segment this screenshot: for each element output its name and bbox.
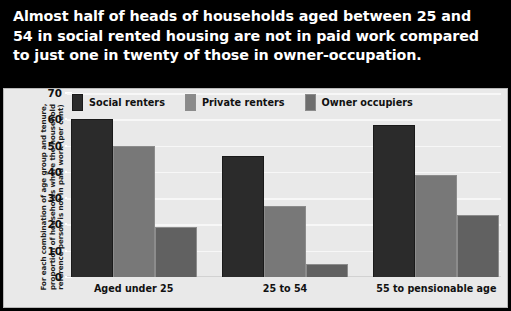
y-tick-label: 10 bbox=[48, 245, 62, 257]
legend-swatch-icon bbox=[72, 94, 83, 111]
plot-area bbox=[67, 93, 501, 277]
bar-group bbox=[71, 93, 197, 277]
chart-figure: Almost half of heads of households aged … bbox=[0, 0, 511, 311]
y-tick-label: 70 bbox=[48, 87, 62, 99]
legend-item-1[interactable]: Private renters bbox=[185, 94, 285, 111]
y-tick-label: 30 bbox=[48, 192, 62, 204]
y-tick-label: 0 bbox=[55, 271, 62, 283]
legend-item-2[interactable]: Owner occupiers bbox=[305, 94, 413, 111]
bar-2-2 bbox=[457, 215, 499, 277]
bar-2-1 bbox=[306, 264, 348, 277]
bar-0-2 bbox=[373, 125, 415, 277]
bar-1-1 bbox=[264, 206, 306, 277]
y-tick-label: 60 bbox=[48, 113, 62, 125]
legend-label: Private renters bbox=[202, 97, 285, 108]
x-axis-labels: Aged under 2525 to 5455 to pensionable a… bbox=[67, 279, 501, 301]
legend-label: Owner occupiers bbox=[322, 97, 413, 108]
chart-legend: Social rentersPrivate rentersOwner occup… bbox=[72, 94, 413, 111]
legend-swatch-icon bbox=[305, 94, 316, 111]
title-banner: Almost half of heads of households aged … bbox=[0, 0, 511, 86]
x-axis-label-2: 55 to pensionable age bbox=[376, 283, 496, 294]
chart-panel: For each combination of age group and te… bbox=[3, 88, 508, 308]
bar-2-0 bbox=[155, 227, 197, 277]
page-title: Almost half of heads of households aged … bbox=[13, 7, 495, 66]
bar-group bbox=[373, 93, 499, 277]
legend-swatch-icon bbox=[185, 94, 196, 111]
y-tick-label: 20 bbox=[48, 218, 62, 230]
x-axis-label-0: Aged under 25 bbox=[94, 283, 173, 294]
legend-label: Social renters bbox=[89, 97, 165, 108]
bar-group bbox=[222, 93, 348, 277]
bar-1-0 bbox=[113, 146, 155, 277]
y-axis-ticks: 010203040506070 bbox=[40, 89, 64, 307]
bar-0-1 bbox=[222, 156, 264, 277]
bar-1-2 bbox=[415, 175, 457, 278]
x-axis-label-1: 25 to 54 bbox=[263, 283, 308, 294]
bar-0-0 bbox=[71, 119, 113, 277]
legend-item-0[interactable]: Social renters bbox=[72, 94, 165, 111]
y-tick-label: 50 bbox=[48, 140, 62, 152]
y-tick-label: 40 bbox=[48, 166, 62, 178]
y-axis-label-container: For each combination of age group and te… bbox=[6, 89, 42, 307]
